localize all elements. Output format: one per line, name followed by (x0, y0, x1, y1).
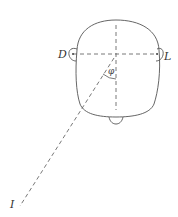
label-l: L (163, 50, 171, 63)
label-phi: φ (108, 66, 115, 76)
label-i: I (9, 198, 15, 211)
label-d: D (57, 48, 67, 61)
head-outline (76, 20, 160, 117)
left-ear-point (72, 53, 74, 55)
source-direction-line (20, 58, 114, 206)
head-localization-diagram: D L I φ (0, 0, 178, 217)
nose (109, 117, 123, 124)
right-ear-point (156, 53, 158, 55)
